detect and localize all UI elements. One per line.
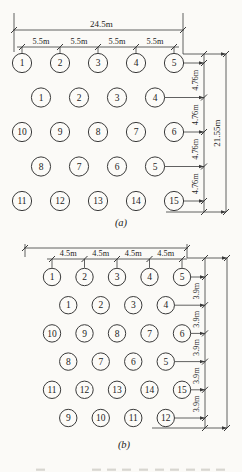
pile-number: 13 — [112, 385, 122, 395]
pile-layout-figure-svg: 24.5m5.5m5.5m5.5m5.5m1234512341098768765… — [0, 0, 242, 472]
dim-label-top-segment: 5.5m — [71, 37, 88, 46]
pile-number: 6 — [131, 357, 136, 367]
pile-number: 7 — [77, 162, 82, 172]
dim-label-right-segment: 3.9m — [192, 367, 201, 384]
pile-number: 2 — [58, 58, 63, 68]
dim-label-right-segment: 3.9m — [192, 395, 201, 412]
pile-number: 7 — [98, 357, 103, 367]
pile-number: 4 — [163, 300, 168, 310]
cropped-caption-fragment — [92, 469, 101, 471]
pile-number: 15 — [177, 385, 187, 395]
pile-number: 12 — [55, 196, 65, 206]
pile-number: 14 — [145, 385, 155, 395]
pile-number: 11 — [47, 385, 56, 395]
pile-number: 9 — [58, 127, 63, 137]
pile-number: 14 — [131, 196, 141, 206]
pile-number: 1 — [20, 58, 25, 68]
pile-number: 5 — [153, 162, 158, 172]
pile-number: 15 — [169, 196, 179, 206]
pile-number: 4 — [134, 58, 139, 68]
panel-label: (a) — [115, 217, 128, 229]
dim-label-right-segment: 4.76m — [191, 138, 200, 160]
pile-number: 13 — [93, 196, 103, 206]
dim-label-top-segment: 5.5m — [109, 37, 126, 46]
cropped-caption-fragment — [155, 469, 164, 471]
dim-label-top-total: 24.5m — [90, 19, 113, 29]
dim-label-top-segment: 4.5m — [125, 249, 142, 258]
pile-number: 9 — [82, 329, 87, 339]
panel-label: (b) — [118, 439, 131, 451]
pile-number: 1 — [66, 300, 71, 310]
dim-label-top-segment: 4.5m — [92, 249, 109, 258]
pile-number: 1 — [50, 272, 55, 282]
pile-number: 8 — [39, 162, 44, 172]
pile-number: 1 — [39, 93, 44, 103]
dim-label-top-segment: 4.5m — [157, 249, 174, 258]
pile-number: 2 — [82, 272, 87, 282]
pile-number: 4 — [147, 272, 152, 282]
pile-number: 7 — [147, 329, 152, 339]
cropped-caption-fragment — [139, 469, 148, 471]
pile-number: 11 — [17, 196, 26, 206]
cropped-caption-fragment — [186, 469, 195, 471]
pile-number: 5 — [163, 357, 168, 367]
pile-number: 7 — [134, 127, 139, 137]
pile-number: 12 — [161, 413, 171, 423]
cropped-caption-fragment — [201, 469, 210, 471]
pile-number: 3 — [131, 300, 136, 310]
pile-number: 9 — [66, 413, 71, 423]
pile-number: 12 — [80, 385, 90, 395]
cropped-caption-fragment — [170, 469, 179, 471]
pile-number: 10 — [96, 413, 106, 423]
dim-label-top-segment: 5.5m — [33, 37, 50, 46]
dim-label-right-segment: 3.9m — [192, 339, 201, 356]
dim-label-right-segment: 3.9m — [192, 282, 201, 299]
pile-number: 3 — [96, 58, 101, 68]
pile-number: 11 — [129, 413, 138, 423]
pile-number: 2 — [98, 300, 103, 310]
pile-number: 10 — [47, 329, 57, 339]
dim-label-right-segment: 4.76m — [191, 69, 200, 91]
pile-number: 5 — [180, 272, 185, 282]
cropped-caption — [36, 469, 225, 471]
pile-number: 10 — [17, 127, 27, 137]
cropped-caption-fragment — [36, 469, 45, 471]
pile-number: 6 — [180, 329, 185, 339]
pile-number: 5 — [172, 58, 177, 68]
pile-number: 8 — [96, 127, 101, 137]
cropped-caption-fragment — [107, 469, 116, 471]
pile-number: 3 — [115, 272, 120, 282]
dim-label-top-segment: 5.5m — [147, 37, 164, 46]
pile-number: 3 — [115, 93, 120, 103]
pile-number: 8 — [66, 357, 71, 367]
pile-number: 6 — [172, 127, 177, 137]
dim-label-right-total: 21.55m — [212, 119, 222, 146]
diagram-b: 4.5m4.5m4.5m4.5m123451234109876876511121… — [22, 244, 230, 451]
dim-label-right-segment: 3.9m — [192, 310, 201, 327]
pile-number: 6 — [115, 162, 120, 172]
dim-label-right-segment: 4.76m — [191, 104, 200, 126]
scanned-figure-page: 24.5m5.5m5.5m5.5m5.5m1234512341098768765… — [0, 0, 242, 472]
pile-number: 8 — [115, 329, 120, 339]
pile-number: 4 — [153, 93, 158, 103]
cropped-caption-fragment — [216, 469, 225, 471]
diagram-a: 24.5m5.5m5.5m5.5m5.5m1234512341098768765… — [11, 13, 229, 229]
pile-number: 2 — [77, 93, 82, 103]
dim-label-right-segment: 4.76m — [191, 173, 200, 195]
dim-label-top-segment: 4.5m — [60, 249, 77, 258]
cropped-caption-fragment — [122, 469, 131, 471]
